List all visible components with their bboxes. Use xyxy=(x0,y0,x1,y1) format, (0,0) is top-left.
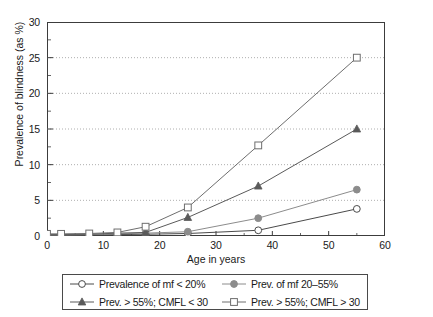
x-tick-label: 60 xyxy=(379,239,390,251)
series-canvas xyxy=(47,22,385,236)
legend-label-2: Prev. > 55%; CMFL < 30 xyxy=(99,296,208,308)
x-axis-title: Age in years xyxy=(47,253,385,265)
filled-triangle-icon xyxy=(69,296,95,308)
y-tick-label: 20 xyxy=(29,87,40,99)
series-3 xyxy=(47,54,360,236)
x-tick-label: 40 xyxy=(267,239,278,251)
y-tick-label: 25 xyxy=(29,52,40,64)
legend-label-1: Prev. of mf 20–55% xyxy=(251,278,338,290)
y-tick-label: 5 xyxy=(34,194,40,206)
open-square-icon xyxy=(221,296,247,308)
x-tick-label: 50 xyxy=(323,239,334,251)
y-tick-label: 15 xyxy=(29,123,40,135)
x-tick-label: 0 xyxy=(44,239,50,251)
y-axis-tick-labels: 051015202530 xyxy=(0,22,40,236)
legend-item-2: Prev. > 55%; CMFL < 30 xyxy=(63,293,221,311)
legend-item-1: Prev. of mf 20–55% xyxy=(221,275,367,293)
legend-item-3: Prev. > 55%; CMFL > 30 xyxy=(221,293,367,311)
series-2 xyxy=(47,125,361,236)
legend-label-0: Prevalence of mf < 20% xyxy=(99,278,205,290)
y-tick-label: 30 xyxy=(29,16,40,28)
legend-item-0: Prevalence of mf < 20% xyxy=(63,275,221,293)
y-tick-label: 10 xyxy=(29,159,40,171)
x-tick-label: 30 xyxy=(210,239,221,251)
filled-circle-icon xyxy=(221,278,247,290)
x-tick-label: 10 xyxy=(98,239,109,251)
legend-row: Prevalence of mf < 20% Prev. of mf 20–55… xyxy=(63,275,367,293)
legend-row: Prev. > 55%; CMFL < 30 Prev. > 55%; CMFL… xyxy=(63,293,367,311)
chart-legend: Prevalence of mf < 20% Prev. of mf 20–55… xyxy=(62,274,368,310)
x-tick-label: 20 xyxy=(154,239,165,251)
plot-area xyxy=(47,22,385,236)
chart-figure: Prevalence of blindness (as %) 051015202… xyxy=(0,0,433,317)
x-axis-tick-labels: 0102030405060 xyxy=(47,239,385,253)
legend-label-3: Prev. > 55%; CMFL > 30 xyxy=(251,296,360,308)
y-tick-label: 0 xyxy=(34,230,40,242)
open-circle-icon xyxy=(69,278,95,290)
